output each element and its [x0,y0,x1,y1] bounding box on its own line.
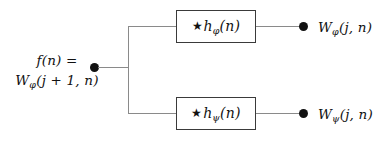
approximation-output-subscript: φ [332,26,339,37]
input-label-symbol: W [15,72,29,88]
wire-approximation-output [256,26,304,27]
wire-bus-to-approximation-filter [128,26,177,27]
input-label-line1: f(n) = [14,51,100,71]
approximation-output-label: Wφ(j, n) [318,19,372,37]
input-label-line2: Wφ(j + 1, n) [14,71,100,92]
wire-detail-output [256,113,304,114]
approximation-output-args: (j, n) [339,19,372,35]
input-label-args: (j + 1, n) [36,72,98,88]
approximation-filter-symbol: h [204,18,213,34]
approximation-output-symbol: W [318,19,332,35]
detail-output-symbol: W [318,106,332,122]
approximation-filter-args: (n) [220,18,241,34]
approximation-filter-box[interactable]: ★hφ(n) [176,10,256,43]
detail-filter-symbol: h [203,105,212,121]
convolution-star-icon: ★ [192,19,203,33]
wire-branch-bus [128,26,129,114]
detail-filter-subscript: ψ [212,112,220,123]
wire-input-to-bus [98,67,129,68]
detail-filter-label: ★hψ(n) [191,105,240,123]
convolution-star-icon: ★ [191,106,202,120]
input-signal-label: f(n) = Wφ(j + 1, n) [14,51,100,91]
detail-output-dot [299,109,308,118]
approximation-filter-subscript: φ [213,25,220,36]
approximation-filter-label: ★hφ(n) [192,18,240,36]
detail-output-subscript: ψ [332,113,340,124]
wire-bus-to-detail-filter [128,113,177,114]
diagram-canvas: f(n) = Wφ(j + 1, n) ★hφ(n) Wφ(j, n) ★hψ(… [0,0,386,141]
detail-filter-args: (n) [220,105,241,121]
approximation-output-dot [299,22,308,31]
detail-output-args: (j, n) [340,106,373,122]
detail-filter-box[interactable]: ★hψ(n) [176,97,256,130]
detail-output-label: Wψ(j, n) [318,106,373,124]
